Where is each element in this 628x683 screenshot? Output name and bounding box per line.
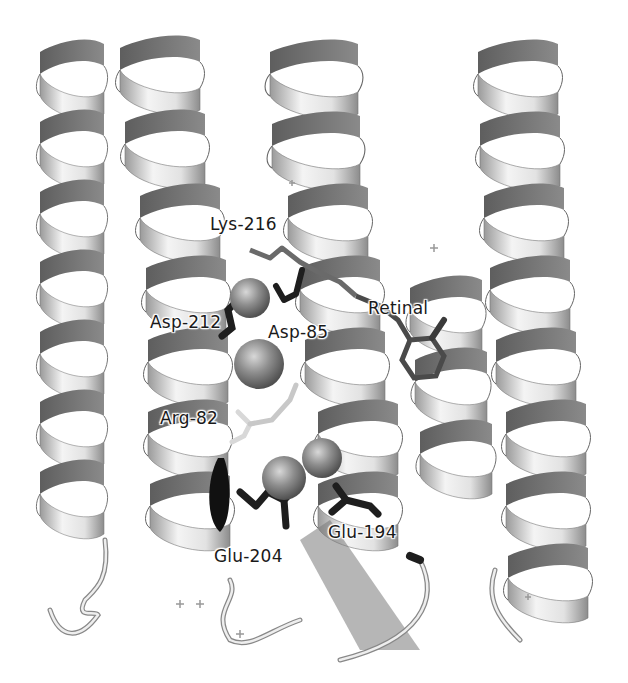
- label-retinal: Retinal: [368, 298, 428, 318]
- label-asp-212: Asp-212: [150, 312, 221, 332]
- label-arg-82: Arg-82: [160, 408, 218, 428]
- label-glu-204: Glu-204: [214, 546, 283, 566]
- helix-e: [474, 39, 593, 622]
- label-lys-216: Lys-216: [210, 214, 277, 234]
- label-glu-194: Glu-194: [328, 522, 397, 542]
- protein-structure-figure: Lys-216 Asp-212 Asp-85 Retinal Arg-82 Gl…: [0, 0, 628, 683]
- asp-85-sidechain: [276, 270, 302, 300]
- helix-a: [36, 39, 107, 633]
- label-asp-85: Asp-85: [268, 322, 328, 342]
- arg-82-sidechain: [232, 385, 296, 442]
